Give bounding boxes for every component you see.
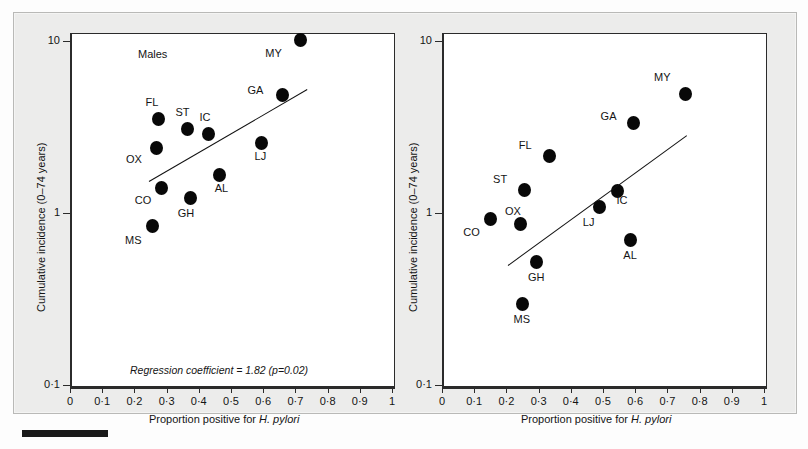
x-tick-mark [732,387,733,393]
x-tick-mark [167,387,168,393]
x-tick-mark [474,387,475,393]
x-tick-mark [603,387,604,393]
x-tick-label: 0·2 [116,395,152,407]
x-tick-mark [635,387,636,393]
y-tick-mark [435,41,442,42]
x-tick-mark [70,387,71,393]
x-tick-mark [102,387,103,393]
data-point [146,219,159,233]
x-tick-label: 0·8 [310,395,346,407]
data-point [624,233,637,247]
y-tick-label: 1 [394,206,432,218]
x-tick-label: 0·5 [585,395,621,407]
x-tick-label: 0·3 [521,395,557,407]
x-tick-label: 0·4 [181,395,217,407]
x-axis-label-text: Proportion positive for [521,413,631,425]
x-tick-label: 0·9 [714,395,750,407]
y-tick-mark [63,213,70,214]
x-axis-label-text: Proportion positive for [149,413,259,425]
x-tick-mark [700,387,701,393]
data-point-label: MS [125,234,142,246]
data-point-label: OX [126,153,142,165]
x-tick-mark [667,387,668,393]
x-tick-label: 0·5 [213,395,249,407]
data-point-label: IC [199,111,210,123]
data-point-label: IC [616,194,627,206]
x-tick-mark [328,387,329,393]
x-tick-label: 0·7 [649,395,685,407]
x-axis-label-females: Proportion positive for H. pylori [521,413,671,425]
x-tick-label: 0 [424,395,460,407]
data-point [294,33,307,47]
x-tick-label: 0·3 [149,395,185,407]
data-point [518,183,531,197]
data-point-label: GA [248,84,264,96]
data-point-label: OX [505,205,521,217]
y-axis-label-females: Cumulative incidence (0–74 years) [407,143,419,312]
data-point [679,87,692,101]
x-axis-label-species: H. pylori [259,413,299,425]
data-point [152,112,165,126]
x-tick-label: 1 [746,395,782,407]
data-point-label: AL [623,249,636,261]
data-point-label: ST [493,173,507,185]
y-tick-mark [435,213,442,214]
data-point-label: LJ [583,216,595,228]
y-tick-mark [435,385,442,386]
x-tick-label: 0·4 [553,395,589,407]
data-point [181,122,194,136]
data-point-label: LJ [255,150,267,162]
data-point-label: FL [146,96,159,108]
x-tick-label: 0·6 [245,395,281,407]
x-tick-mark [263,387,264,393]
x-tick-mark [360,387,361,393]
chart-panel-females: Females Cumulative incidence (0–74 years… [392,12,782,400]
x-tick-mark [199,387,200,393]
panel-title-males: Males [138,48,167,60]
data-point [213,168,226,182]
data-point-label: MY [265,47,282,59]
x-tick-mark [764,387,765,393]
x-tick-label: 0·7 [277,395,313,407]
x-tick-label: 0 [52,395,88,407]
y-tick-label: 0·1 [22,378,60,390]
data-point-label: GA [601,110,617,122]
data-point-label: FL [519,139,532,151]
data-point [202,127,215,141]
x-tick-label: 0·1 [84,395,120,407]
data-point-label: CO [135,194,152,206]
x-axis-label-species: H. pylori [631,413,671,425]
x-tick-mark [442,387,443,393]
data-point-label: MS [514,313,531,325]
y-tick-mark [63,385,70,386]
y-tick-label: 1 [22,206,60,218]
y-axis-label-males: Cumulative incidence (0–74 years) [35,143,47,312]
x-tick-mark [134,387,135,393]
data-point-label: ST [176,106,190,118]
data-point-label: CO [463,226,480,238]
x-tick-label: 0·8 [682,395,718,407]
x-tick-label: 0·9 [342,395,378,407]
x-tick-label: 0·1 [456,395,492,407]
y-tick-mark [63,41,70,42]
x-tick-label: 0·6 [617,395,653,407]
data-point-label: MY [654,71,671,83]
data-point-label: GH [178,207,195,219]
x-tick-mark [571,387,572,393]
data-point-label: AL [215,182,228,194]
caption-rule [22,430,108,437]
y-tick-label: 0·1 [394,378,432,390]
x-tick-label: 0·2 [488,395,524,407]
data-point-label: GH [528,271,545,283]
plot-area-males [70,33,395,389]
x-tick-mark [539,387,540,393]
chart-panel-males: Males Cumulative incidence (0–74 years) … [18,12,410,400]
x-axis-label-males: Proportion positive for H. pylori [149,413,299,425]
figure-page: Males Cumulative incidence (0–74 years) … [0,0,808,449]
y-tick-label: 10 [22,34,60,46]
x-tick-mark [506,387,507,393]
x-tick-mark [231,387,232,393]
y-tick-label: 10 [394,34,432,46]
x-tick-mark [295,387,296,393]
regression-annotation-males: Regression coefficient = 1.82 (p=0.02) [130,364,308,376]
